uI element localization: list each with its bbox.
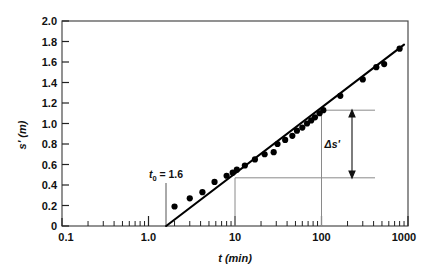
data-point xyxy=(320,107,326,113)
t0-label-val: = 1.6 xyxy=(157,168,184,180)
y-tick-label: 1.0 xyxy=(42,118,57,130)
y-tick-label: 0.8 xyxy=(42,138,57,150)
y-axis-title-text: s' (m) xyxy=(16,120,28,149)
y-tick-label: 2.0 xyxy=(42,15,57,27)
y-tick-label: 1.4 xyxy=(42,77,58,89)
y-tick-label: 0.4 xyxy=(42,179,58,191)
data-point xyxy=(224,173,230,179)
y-axis-ticks xyxy=(62,21,69,226)
data-point xyxy=(312,114,318,120)
x-tick-label: 1000 xyxy=(392,231,416,243)
x-axis-tick-labels: 0.1 1.0 10 100 1000 xyxy=(58,231,416,243)
fit-line xyxy=(166,45,404,226)
x-tick-label: 100 xyxy=(312,231,330,243)
data-point xyxy=(262,151,268,157)
data-point xyxy=(274,141,280,147)
data-point xyxy=(187,195,193,201)
y-tick-label: 1.6 xyxy=(42,56,57,68)
data-point xyxy=(294,128,300,134)
data-point xyxy=(381,61,387,67)
y-axis-tick-labels: 0 0.2 0.4 0.6 0.8 1.0 1.2 1.4 1.6 1.8 2.… xyxy=(42,15,58,232)
x-tick-label: 0.1 xyxy=(58,231,73,243)
x-tick-label: 1.0 xyxy=(141,231,156,243)
data-point xyxy=(282,137,288,143)
y-tick-label: 0 xyxy=(51,220,57,232)
x-axis-minor-ticks xyxy=(88,221,404,226)
data-point xyxy=(397,46,403,52)
data-point xyxy=(234,167,240,173)
y-tick-label: 0.2 xyxy=(42,200,57,212)
data-point xyxy=(242,162,248,168)
data-point xyxy=(171,203,177,209)
chart-canvas: 0 0.2 0.4 0.6 0.8 1.0 1.2 1.4 1.6 1.8 2.… xyxy=(0,0,431,279)
delta-s-label: Δs' xyxy=(324,138,341,150)
data-point xyxy=(199,189,205,195)
figure-semilog-settlement-plot: 0 0.2 0.4 0.6 0.8 1.0 1.2 1.4 1.6 1.8 2.… xyxy=(0,0,431,279)
y-tick-label: 1.2 xyxy=(42,97,57,109)
data-point xyxy=(299,125,305,131)
data-point xyxy=(271,149,277,155)
y-tick-label: 1.8 xyxy=(42,36,57,48)
y-axis-title: s' (m) xyxy=(16,120,28,149)
delta-s-arrow xyxy=(349,110,355,178)
x-axis-title: t (min) xyxy=(218,252,252,264)
data-point xyxy=(337,93,343,99)
data-point xyxy=(360,76,366,82)
data-point xyxy=(373,64,379,70)
data-point xyxy=(211,179,217,185)
x-axis-title-text: t (min) xyxy=(218,252,252,264)
t0-label: t0 = 1.6 xyxy=(149,168,183,183)
data-point-group xyxy=(171,46,402,210)
data-point xyxy=(289,133,295,139)
x-tick-label: 10 xyxy=(229,231,241,243)
y-tick-label: 0.6 xyxy=(42,159,57,171)
data-point xyxy=(252,156,258,162)
